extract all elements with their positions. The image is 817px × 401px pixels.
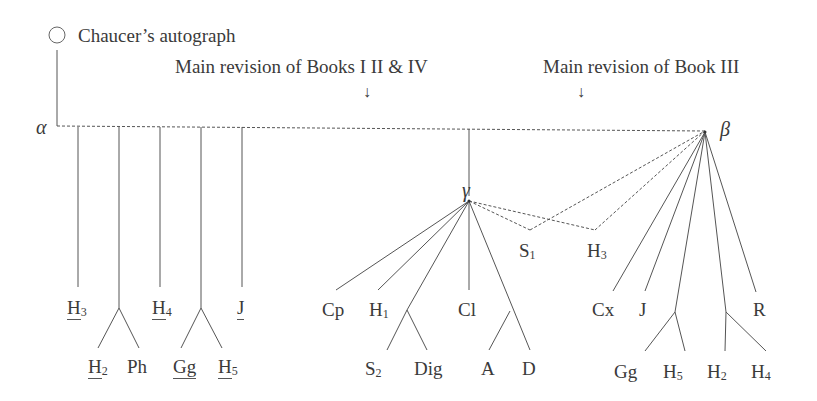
witness-J-alpha: J bbox=[237, 298, 244, 317]
witness-H5-beta: H5 bbox=[663, 362, 683, 382]
witness-Ph: Ph bbox=[127, 357, 147, 376]
witness-H3-contaminated: H3 bbox=[587, 241, 607, 261]
stemma-diagram: Chaucer’s autograph Main revision of Boo… bbox=[0, 0, 817, 401]
witness-D: D bbox=[522, 359, 536, 378]
node-beta: β bbox=[720, 119, 730, 139]
down-arrow-icon: ↓ bbox=[363, 84, 371, 100]
witness-H2-alpha: H2 bbox=[88, 357, 108, 377]
circle-icon bbox=[49, 27, 65, 43]
witness-R: R bbox=[753, 300, 766, 319]
node-gamma: γ bbox=[462, 180, 470, 200]
witness-Gg-alpha: Gg bbox=[173, 357, 196, 376]
witness-J-beta: J bbox=[639, 300, 646, 319]
witness-Gg-beta: Gg bbox=[614, 362, 637, 381]
revision-annotation-book-3: Main revision of Book III bbox=[543, 57, 739, 76]
root-label: Chaucer’s autograph bbox=[78, 26, 235, 45]
down-arrow-icon: ↓ bbox=[577, 84, 585, 100]
witness-H2-beta: H2 bbox=[707, 362, 727, 382]
revision-annotation-books-1-2-4: Main revision of Books I II & IV bbox=[175, 57, 428, 76]
witness-Cl: Cl bbox=[458, 300, 476, 319]
witness-S2: S2 bbox=[365, 359, 382, 379]
witness-Cp: Cp bbox=[322, 300, 344, 319]
witness-H1: H1 bbox=[369, 300, 389, 320]
witness-H4-beta: H4 bbox=[751, 362, 771, 382]
witness-H5-alpha: H5 bbox=[218, 357, 238, 377]
witness-H4-alpha: H4 bbox=[152, 298, 172, 318]
witness-S1: S1 bbox=[519, 241, 536, 261]
witness-Cx: Cx bbox=[592, 300, 614, 319]
node-alpha: α bbox=[36, 117, 47, 137]
witness-A: A bbox=[481, 359, 495, 378]
witness-Dig: Dig bbox=[414, 359, 443, 378]
witness-H3-alpha: H3 bbox=[67, 298, 87, 318]
